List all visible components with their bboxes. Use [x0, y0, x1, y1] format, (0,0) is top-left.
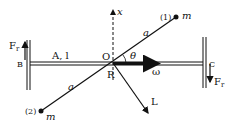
angular-momentum-label: L: [151, 96, 158, 107]
theta-label: θ: [130, 50, 136, 61]
rod-length-upper: a: [143, 27, 149, 38]
bearing-b-label: B: [17, 60, 23, 69]
mass-1: [174, 15, 179, 20]
bearing-c-label: C: [209, 60, 215, 69]
mass-1-label: m: [182, 10, 191, 21]
shaft: [30, 62, 203, 65]
bearing-left: [27, 40, 30, 90]
force-right-label: Fr: [214, 76, 225, 89]
origin-label: O: [102, 51, 110, 62]
mass-1-index: (1): [160, 13, 171, 22]
rod-length-lower: a: [68, 81, 74, 92]
shaft-label: A, l: [51, 50, 69, 61]
point-r-label: R: [107, 69, 115, 80]
bearing-right: [203, 37, 206, 88]
rigid-body-diagram: x (1) m (2) m a a θ ω L O R A, l B C Fr …: [0, 0, 235, 123]
omega-label: ω: [152, 66, 160, 77]
x-axis-label: x: [117, 6, 123, 17]
mass-2-label: m: [46, 111, 55, 122]
mass-2: [39, 109, 44, 114]
mass-2-index: (2): [25, 107, 36, 116]
angular-momentum-arrow: [113, 63, 148, 113]
force-left-label: Fr: [9, 40, 20, 53]
